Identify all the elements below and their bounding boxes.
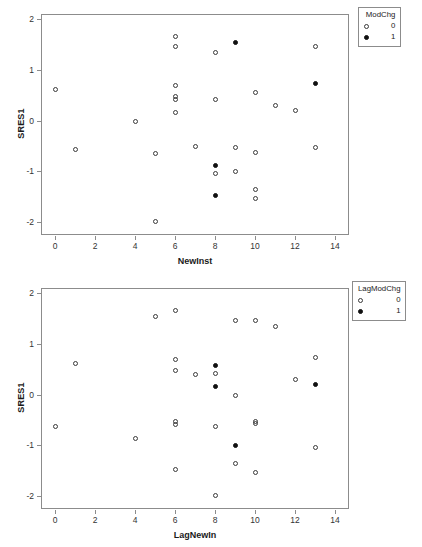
data-point <box>213 193 218 198</box>
y-tick-label: 1 <box>17 66 34 75</box>
data-point <box>213 363 218 368</box>
plot-area <box>41 14 349 235</box>
data-point <box>133 436 138 441</box>
x-tick-label: 6 <box>173 516 178 525</box>
data-point <box>313 44 318 49</box>
legend-entry-label: 1 <box>396 307 400 316</box>
filled-circle-icon <box>364 35 369 40</box>
data-point <box>253 187 258 192</box>
data-point <box>173 44 178 49</box>
y-tick-label: 1 <box>17 340 34 349</box>
x-tick-label: 0 <box>53 516 58 525</box>
x-axis-title: NewInst <box>178 257 213 266</box>
y-tick-label: -1 <box>17 441 34 450</box>
data-point <box>173 110 178 115</box>
x-tick-label: 6 <box>173 242 178 251</box>
data-point <box>313 445 318 450</box>
legend-box: ModChg01 <box>358 7 401 47</box>
y-tick-mark <box>37 344 41 345</box>
data-point <box>213 163 218 168</box>
data-point <box>173 34 178 39</box>
data-point <box>253 150 258 155</box>
data-point <box>173 467 178 472</box>
data-point <box>313 145 318 150</box>
legend-entry-label: 0 <box>391 22 395 31</box>
y-tick-label: -1 <box>17 167 34 176</box>
x-tick-mark <box>255 510 256 514</box>
y-tick-label: 2 <box>17 289 34 298</box>
data-point <box>173 368 178 373</box>
data-point <box>193 144 198 149</box>
scatter-panel-newinst: 02468101214-2-1012NewInstSRES1ModChg01 <box>0 0 422 273</box>
y-tick-label: -2 <box>17 218 34 227</box>
data-point <box>233 461 238 466</box>
data-point <box>273 324 278 329</box>
data-point <box>253 421 258 426</box>
data-point <box>213 50 218 55</box>
legend-entry-label: 1 <box>391 33 395 42</box>
x-tick-mark <box>175 236 176 240</box>
data-point <box>213 371 218 376</box>
data-point <box>213 384 218 389</box>
x-tick-label: 10 <box>250 242 259 251</box>
data-point <box>173 357 178 362</box>
x-tick-label: 8 <box>213 516 218 525</box>
legend-entry[interactable]: 1 <box>358 306 400 317</box>
x-tick-label: 12 <box>290 516 299 525</box>
data-point <box>293 108 298 113</box>
x-tick-label: 8 <box>213 242 218 251</box>
data-point <box>53 87 58 92</box>
x-tick-mark <box>295 510 296 514</box>
y-tick-mark <box>37 121 41 122</box>
y-tick-mark <box>37 19 41 20</box>
data-point <box>213 97 218 102</box>
data-point <box>313 81 318 86</box>
x-tick-mark <box>55 236 56 240</box>
data-point <box>73 147 78 152</box>
y-tick-label: 2 <box>17 15 34 24</box>
filled-circle-icon <box>358 309 363 314</box>
data-point <box>133 119 138 124</box>
data-point <box>153 314 158 319</box>
x-tick-label: 0 <box>53 242 58 251</box>
data-point <box>233 145 238 150</box>
data-point <box>153 219 158 224</box>
x-tick-mark <box>335 236 336 240</box>
data-point <box>233 393 238 398</box>
y-tick-label: -2 <box>17 492 34 501</box>
y-tick-mark <box>37 70 41 71</box>
x-tick-label: 2 <box>93 242 98 251</box>
x-tick-mark <box>55 510 56 514</box>
data-point <box>213 424 218 429</box>
legend-entry[interactable]: 0 <box>364 21 395 32</box>
scatterplot-page: 02468101214-2-1012NewInstSRES1ModChg01 0… <box>0 0 422 547</box>
x-tick-mark <box>215 236 216 240</box>
data-point <box>73 361 78 366</box>
data-point <box>193 372 198 377</box>
data-point <box>213 171 218 176</box>
legend-entry[interactable]: 0 <box>358 295 400 306</box>
data-point <box>233 318 238 323</box>
data-point <box>173 97 178 102</box>
data-point <box>313 382 318 387</box>
data-point <box>173 308 178 313</box>
y-tick-mark <box>37 445 41 446</box>
legend-entry-label: 0 <box>396 296 400 305</box>
x-tick-label: 14 <box>330 516 339 525</box>
open-circle-icon <box>358 298 363 303</box>
open-circle-icon <box>364 24 369 29</box>
data-point <box>173 422 178 427</box>
legend-entry[interactable]: 1 <box>364 32 395 43</box>
x-tick-label: 10 <box>250 516 259 525</box>
y-tick-mark <box>37 171 41 172</box>
data-point <box>153 151 158 156</box>
scatter-panel-lagnewin: 02468101214-2-1012LagNewInSRES1LagModChg… <box>0 273 422 547</box>
y-tick-mark <box>37 293 41 294</box>
data-point <box>173 83 178 88</box>
y-tick-mark <box>37 496 41 497</box>
x-tick-label: 4 <box>133 516 138 525</box>
x-tick-label: 14 <box>330 242 339 251</box>
y-axis-title: SRES1 <box>17 377 26 417</box>
x-tick-mark <box>95 510 96 514</box>
y-axis-title: SRES1 <box>17 103 26 143</box>
